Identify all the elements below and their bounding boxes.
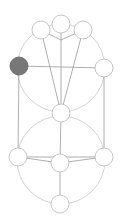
node-top-center[interactable]	[52, 15, 70, 33]
edge-mid-left-low-left	[18, 66, 19, 157]
node-top-right[interactable]	[74, 21, 92, 39]
edge-top-left-center	[41, 30, 61, 113]
node-low-center[interactable]	[51, 154, 69, 172]
node-mid-right[interactable]	[95, 59, 113, 77]
node-bottom[interactable]	[51, 195, 69, 213]
graph-diagram	[0, 0, 121, 224]
node-low-left[interactable]	[9, 148, 27, 166]
node-top-left[interactable]	[32, 21, 50, 39]
edge-mid-left-mid-right	[19, 66, 104, 68]
edge-top-right-center	[61, 30, 83, 113]
node-center[interactable]	[52, 104, 70, 122]
node-low-right[interactable]	[95, 148, 113, 166]
node-mid-left[interactable]	[10, 57, 28, 75]
